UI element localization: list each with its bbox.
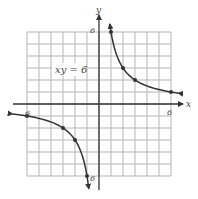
data-point — [169, 90, 173, 94]
y-axis-label: y — [95, 5, 102, 15]
y-tick-neg-label: 6 — [90, 174, 95, 183]
hyperbola-graph: y x 6 6 6 6 xy = 6 — [0, 0, 198, 199]
data-point — [121, 66, 125, 70]
equation-label: xy = 6 — [55, 64, 88, 75]
data-point — [109, 30, 113, 34]
data-point — [73, 138, 77, 142]
x-axis-label: x — [186, 99, 191, 109]
x-tick-neg-label: 6 — [25, 109, 30, 118]
data-point — [85, 174, 89, 178]
y-tick-pos-label: 6 — [90, 26, 95, 35]
data-point — [61, 126, 65, 130]
curve-branch-q1 — [110, 24, 178, 93]
x-tick-pos-label: 6 — [167, 108, 172, 117]
data-point — [133, 78, 137, 82]
